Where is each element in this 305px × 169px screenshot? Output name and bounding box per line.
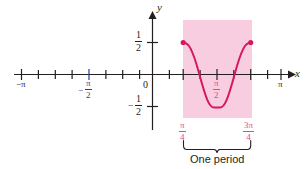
y-tick-label-half: 1 2 xyxy=(135,30,142,53)
pi-over-4-denominator: 4 xyxy=(179,131,186,142)
x-tick-label-three-pi-over-4: 3π 4 xyxy=(243,121,254,142)
x-tick-label-neg-pi: −π xyxy=(16,80,26,89)
graph-canvas xyxy=(0,0,305,169)
pi-over-4-numerator: π xyxy=(179,121,186,131)
pi-over-2-numerator: π xyxy=(213,79,220,89)
y-tick-label-neg-half: 1 2 xyxy=(135,94,142,117)
y-neg-half-numerator: 1 xyxy=(135,94,142,105)
x-tick-label-pi-over-2: π 2 xyxy=(213,79,220,100)
y-half-numerator: 1 xyxy=(135,30,142,41)
neg-pi-over-2-denominator: 2 xyxy=(85,89,92,100)
one-period-brace xyxy=(184,141,251,153)
y-neg-half-denominator: 2 xyxy=(135,105,142,117)
x-axis-label: x xyxy=(295,68,300,79)
curve-endpoint-left-dot xyxy=(181,40,186,45)
x-tick-label-neg-pi-over-2-sign: − xyxy=(78,86,83,95)
three-pi-over-4-numerator: 3π xyxy=(243,121,254,131)
x-tick-label-pi: π xyxy=(278,80,283,89)
three-pi-over-4-denominator: 4 xyxy=(243,131,254,142)
curve-endpoint-right-dot xyxy=(248,40,253,45)
y-axis-arrow xyxy=(149,11,157,19)
y-axis-label: y xyxy=(157,2,162,13)
y-half-denominator: 2 xyxy=(135,41,142,53)
x-tick-label-neg-pi-over-2: π 2 xyxy=(85,79,92,100)
origin-label: 0 xyxy=(143,80,148,90)
one-period-caption: One period xyxy=(190,153,244,165)
y-neg-half-sign: − xyxy=(128,101,134,111)
pi-over-2-denominator: 2 xyxy=(213,89,220,100)
math-graph-figure: y x 1 2 − 1 2 0 −π − π 2 π 2 π π 4 3π 4 … xyxy=(0,0,305,169)
neg-pi-over-2-numerator: π xyxy=(85,79,92,89)
x-tick-label-pi-over-4: π 4 xyxy=(179,121,186,142)
